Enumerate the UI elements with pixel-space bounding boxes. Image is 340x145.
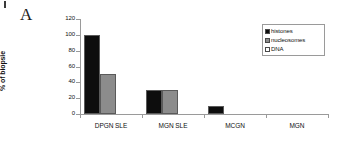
y-axis-tick-label: 0 [56,114,75,115]
legend-item-label: histones [271,27,293,36]
gray-square-icon [265,38,270,43]
y-axis-tick-label: 60 [56,67,75,68]
legend-item: histones [265,27,322,36]
x-axis-tick-mark [204,114,205,118]
x-axis-tick-mark [266,114,267,118]
x-axis-category-label: MCGN [204,122,266,129]
bar-nucleosomes-mgn-sle [162,90,178,114]
y-axis-tick-label: 20 [56,98,75,99]
x-axis-category-label: DPGN SLE [80,122,142,129]
legend-item-label: nucleosomes [271,36,305,45]
y-axis-tick-label: 100 [56,35,75,36]
legend-item-label: DNA [271,45,283,54]
y-axis-tick-value: 80 [56,47,75,53]
x-axis-category-label: MGN [266,122,328,129]
y-axis-tick-value: 20 [56,94,75,100]
chart-legend: histones nucleosomes DNA [262,24,325,56]
y-axis-tick-value: 100 [56,31,75,37]
y-axis-tick-value: 0 [56,110,75,116]
black-square-icon [265,29,270,34]
scan-artifact-mark [4,1,6,8]
y-axis-tick-label: 120 [56,19,75,20]
y-axis-title: % of biopsie [0,36,6,106]
bar-nucleosomes-dpgn-sle [100,74,116,114]
legend-item: DNA [265,45,322,54]
x-axis-tick-mark [328,114,329,118]
bar-histones-mcgn [208,106,224,114]
x-axis-tick-mark [142,114,143,118]
x-axis-category-label: MGN SLE [142,122,204,129]
white-square-icon [265,47,270,52]
figure-panel-a: A % of biopsie 020406080100120 DPGN SLEM… [0,0,340,145]
bar-histones-mgn-sle [146,90,162,114]
panel-label: A [20,6,32,23]
bar-histones-dpgn-sle [84,35,100,114]
y-axis-tick-value: 40 [56,78,75,84]
y-axis-tick-value: 120 [56,15,75,21]
legend-item: nucleosomes [265,36,322,45]
y-axis-tick-value: 60 [56,63,75,69]
y-axis-tick-label: 80 [56,51,75,52]
y-axis-tick-label: 40 [56,82,75,83]
x-axis-tick-mark [80,114,81,118]
